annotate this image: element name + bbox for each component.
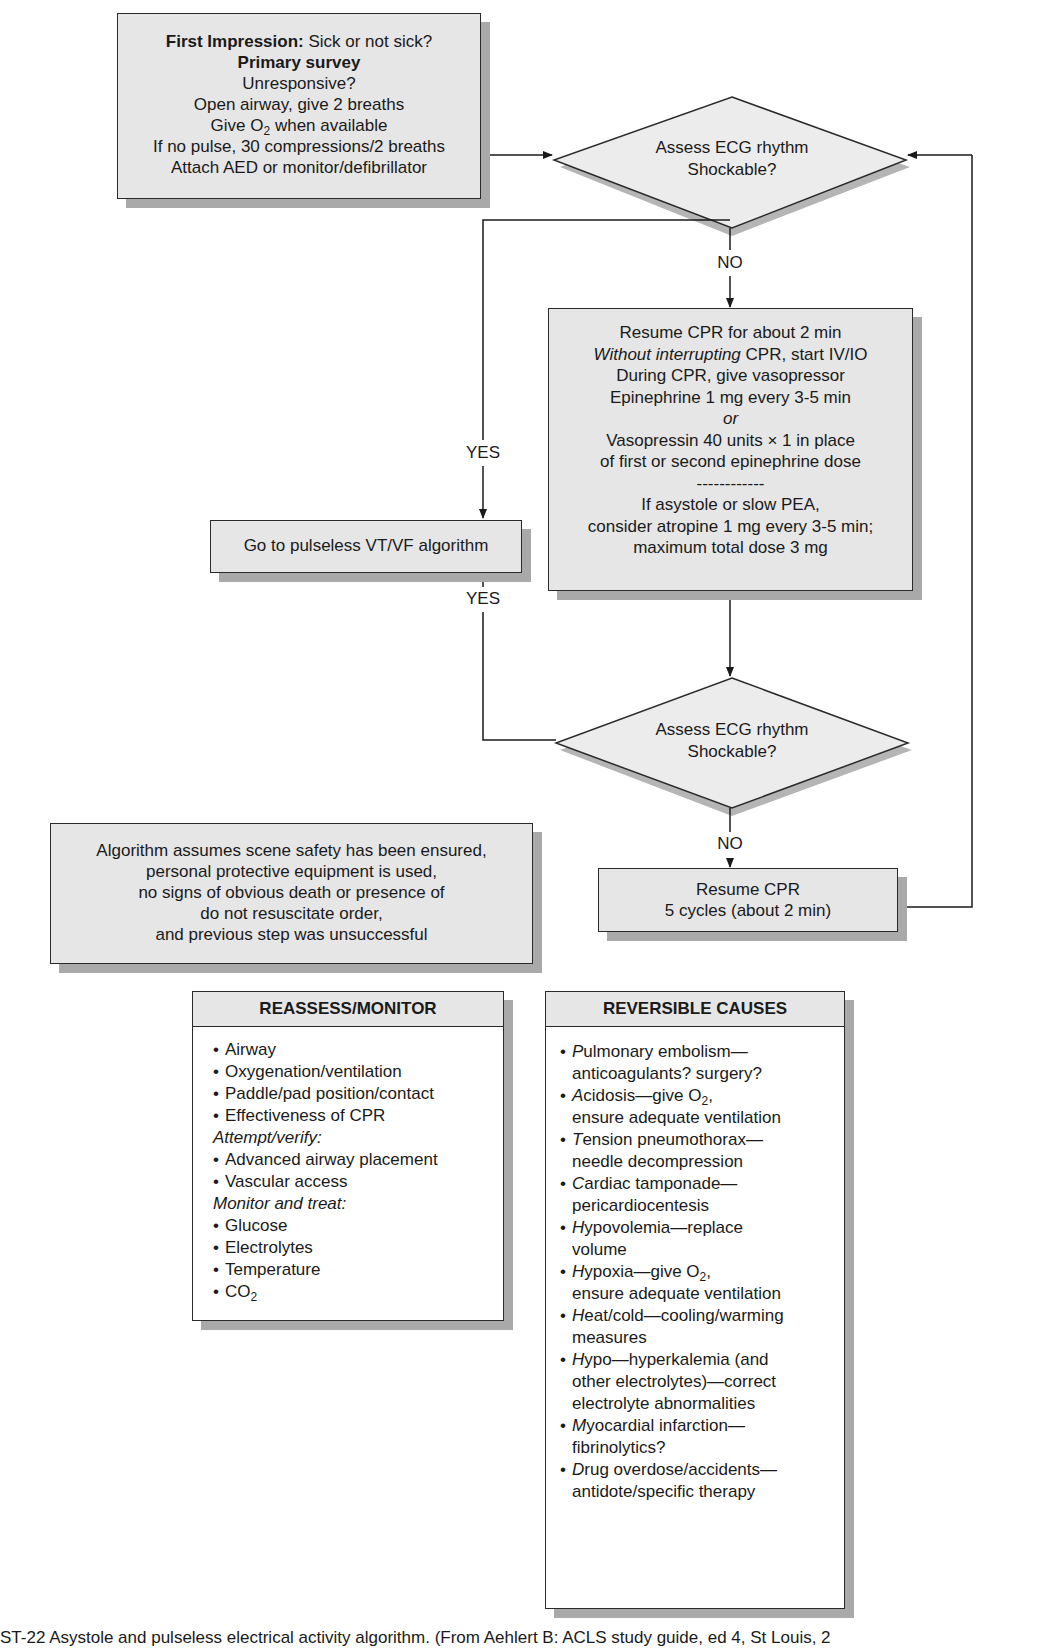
resume-cpr-medication-box: Resume CPR for about 2 min Without inter… [548,308,913,591]
yes-label-2: YES [463,587,503,611]
list-item: •Advanced airway placement [213,1149,503,1171]
reversible-panel-title: REVERSIBLE CAUSES [546,992,844,1027]
list-item: •Myocardial infarction—fibrinolytics? [560,1415,844,1459]
list-item: •Oxygenation/ventilation [213,1061,503,1083]
resume-cpr-box: Resume CPR 5 cycles (about 2 min) [598,868,898,932]
primary-survey-heading: Primary survey [118,52,480,73]
list-item: •Glucose [213,1215,503,1237]
list-item: •Acidosis—give O2,ensure adequate ventil… [560,1085,844,1129]
list-item: •Hypoxia—give O2,ensure adequate ventila… [560,1261,844,1305]
list-item: •Paddle/pad position/contact [213,1083,503,1105]
reassess-monitor-panel: REASSESS/MONITOR •Airway •Oxygenation/ve… [192,991,504,1321]
list-item: •Cardiac tamponade—pericardiocentesis [560,1173,844,1217]
start-line: Attach AED or monitor/defibrillator [118,157,480,178]
divider: ------------ [549,473,912,495]
list-item: •CO2 [213,1281,503,1303]
decision-1-text: Assess ECG rhythm Shockable? [632,137,832,181]
list-item: •Pulmonary embolism—anticoagulants? surg… [560,1041,844,1085]
first-impression-line: First Impression: Sick or not sick? [118,31,480,52]
give-o2-line: Give O2 when available [118,115,480,136]
reassess-panel-title: REASSESS/MONITOR [193,992,503,1027]
list-item: •Tension pneumothorax—needle decompressi… [560,1129,844,1173]
list-item: •Electrolytes [213,1237,503,1259]
reversible-causes-panel: REVERSIBLE CAUSES •Pulmonary embolism—an… [545,991,845,1609]
list-item: •Hypovolemia—replacevolume [560,1217,844,1261]
figure-caption: ST-22 Asystole and pulseless electrical … [0,1628,1040,1648]
list-item: •Heat/cold—cooling/warmingmeasures [560,1305,844,1349]
subheading: Monitor and treat: [213,1193,503,1215]
primary-survey-box: First Impression: Sick or not sick? Prim… [117,13,481,199]
list-item: •Hypo—hyperkalemia (andother electrolyte… [560,1349,844,1415]
list-item: •Drug overdose/accidents—antidote/specif… [560,1459,844,1503]
start-line: Open airway, give 2 breaths [118,94,480,115]
start-line: Unresponsive? [118,73,480,94]
subheading: Attempt/verify: [213,1127,503,1149]
line-decision2-yes [483,612,556,740]
start-line: If no pulse, 30 compressions/2 breaths [118,136,480,157]
pulseless-vt-vf-box: Go to pulseless VT/VF algorithm [210,520,522,573]
list-item: •Effectiveness of CPR [213,1105,503,1127]
no-label-2: NO [712,832,748,856]
algorithm-assumptions-box: Algorithm assumes scene safety has been … [50,823,533,964]
list-item: •Airway [213,1039,503,1061]
list-item: •Vascular access [213,1171,503,1193]
no-label-1: NO [712,251,748,275]
decision-2-text: Assess ECG rhythm Shockable? [632,719,832,763]
list-item: •Temperature [213,1259,503,1281]
yes-label-1: YES [463,441,503,465]
